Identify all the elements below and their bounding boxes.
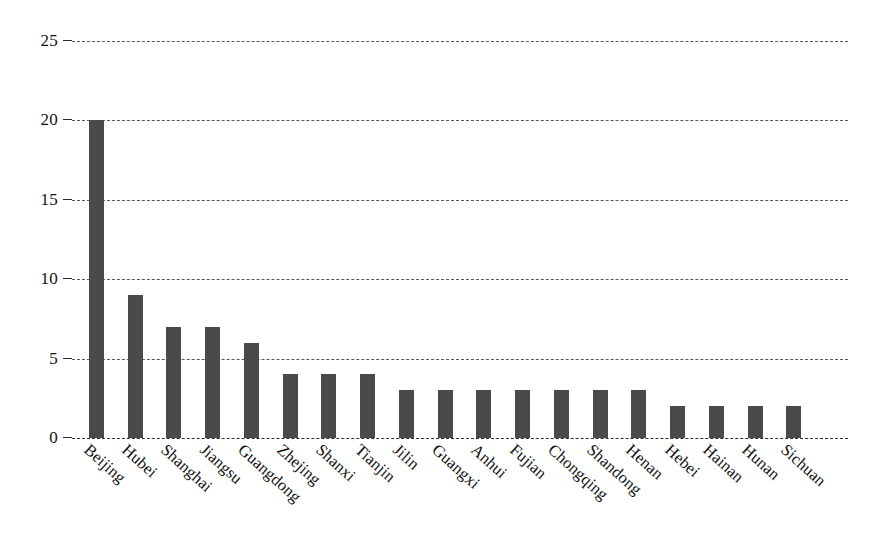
plot-area: 0510152025 — [72, 41, 848, 438]
x-axis-label: Sichuan — [776, 440, 829, 491]
bar — [166, 327, 181, 438]
bar — [709, 406, 724, 438]
y-axis-tick-mark — [63, 199, 72, 200]
bar — [786, 406, 801, 438]
bar-chart: 0510152025 BeijingHubeiShanghaiJiangsuGu… — [0, 0, 892, 552]
y-axis-tick-label: 10 — [41, 269, 58, 289]
bar — [283, 374, 298, 438]
bar — [670, 406, 685, 438]
bar — [593, 390, 608, 438]
y-axis-tick-mark — [63, 119, 72, 120]
axis-baseline — [72, 438, 848, 439]
x-axis-label: Hainan — [699, 440, 748, 487]
y-axis-tick-label: 0 — [49, 428, 58, 448]
x-axis-label: Hebei — [660, 440, 703, 482]
bar — [515, 390, 530, 438]
y-axis-tick-label: 25 — [41, 31, 58, 51]
y-axis-tick-mark — [63, 358, 72, 359]
y-axis-tick-mark — [63, 40, 72, 41]
y-axis-tick-label: 5 — [49, 349, 58, 369]
y-axis-tick-mark — [63, 278, 72, 279]
bar — [476, 390, 491, 438]
bars — [72, 41, 848, 438]
x-axis-label: Fujian — [505, 440, 550, 483]
bar — [128, 295, 143, 438]
x-axis-label: Hunan — [738, 440, 784, 485]
bar — [205, 327, 220, 438]
bar — [631, 390, 646, 438]
x-axis-label: Beijing — [79, 440, 129, 488]
x-axis-labels: BeijingHubeiShanghaiJiangsuGuangdongZhej… — [72, 440, 848, 550]
x-axis-label: Tianjin — [350, 440, 399, 487]
bar — [244, 343, 259, 438]
bar — [554, 390, 569, 438]
y-axis-tick-label: 15 — [41, 190, 58, 210]
bar — [89, 120, 104, 438]
bar — [399, 390, 414, 438]
bar — [321, 374, 336, 438]
bar — [438, 390, 453, 438]
bar — [748, 406, 763, 438]
y-axis-tick-label: 20 — [41, 110, 58, 130]
y-axis-tick-mark — [63, 437, 72, 438]
bar — [360, 374, 375, 438]
